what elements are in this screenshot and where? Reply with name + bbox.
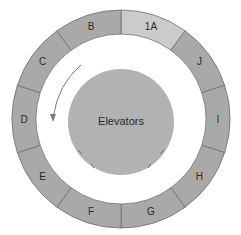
- ring-segment-label-i: I: [217, 114, 220, 125]
- ring-segment-label-e: E: [39, 171, 46, 182]
- elevator-core-label: Elevators: [98, 115, 144, 127]
- ring-segment-label-g: G: [147, 206, 155, 217]
- elevator-ring-diagram: 1AJIHGFEDCB Elevators: [0, 0, 241, 235]
- ring-segment-label-j: J: [197, 56, 202, 67]
- ring-segment-label-h: H: [196, 171, 203, 182]
- ring-segment-label-c: C: [39, 56, 46, 67]
- ring-segment-label-1a: 1A: [145, 21, 158, 32]
- ring-segment-label-b: B: [88, 21, 95, 32]
- ring-segment-label-d: D: [20, 114, 27, 125]
- ring-segment-label-f: F: [88, 206, 94, 217]
